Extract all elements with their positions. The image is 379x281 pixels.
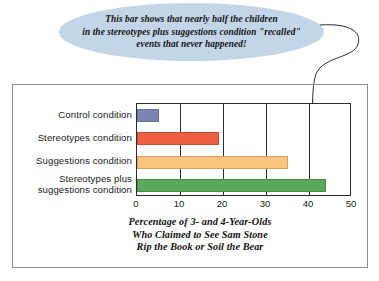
bar-row [137, 179, 326, 192]
x-axis-caption: Percentage of 3- and 4-Year-Olds Who Cla… [60, 216, 340, 254]
bar-row [137, 156, 288, 169]
category-label: Stereotypes plus suggestions condition [8, 173, 132, 196]
plot-area [136, 103, 351, 196]
bar-stereotypes-plus-suggestions-condition [137, 179, 326, 192]
category-axis-labels: Control conditionStereotypes conditionSu… [8, 103, 132, 196]
category-label: Stereotypes condition [8, 132, 132, 144]
tick-label-10: 10 [174, 198, 185, 209]
bar-control-condition [137, 109, 159, 122]
bar-stereotypes-condition [137, 132, 219, 145]
x-axis-tick-labels: 01020304050 [136, 198, 351, 212]
tick-label-40: 40 [303, 198, 314, 209]
bar-suggestions-condition [137, 156, 288, 169]
bar-row [137, 109, 159, 122]
figure-canvas: This bar shows that nearly half the chil… [0, 0, 379, 281]
tick-label-0: 0 [133, 198, 138, 209]
tick-label-50: 50 [346, 198, 357, 209]
bar-row [137, 132, 219, 145]
callout-text: This bar shows that nearly half the chil… [68, 13, 314, 51]
category-label: Suggestions condition [8, 155, 132, 167]
callout-bubble: This bar shows that nearly half the chil… [59, 3, 324, 61]
tick-label-30: 30 [260, 198, 271, 209]
category-label: Control condition [8, 109, 132, 121]
tick-label-20: 20 [217, 198, 228, 209]
